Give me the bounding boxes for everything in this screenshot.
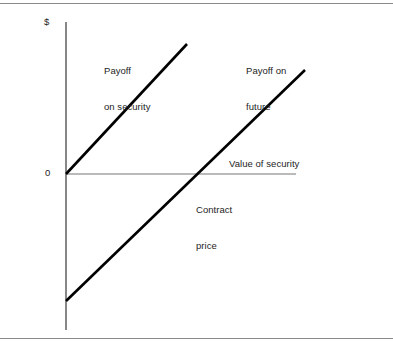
payoff-on-future-annotation-line2: future [246,101,286,113]
contract-price-annotation: Contract price [196,180,232,276]
contract-price-annotation-line2: price [196,240,232,252]
payoff-on-security-annotation-line2: on security [104,101,151,113]
payoff-on-future-annotation: Payoff on future [246,41,286,137]
contract-price-annotation-line1: Contract [196,204,232,216]
y-axis-label: $ [44,16,49,28]
x-axis-label: Value of security [229,158,299,170]
y-axis-zero-label: 0 [45,167,50,179]
payoff-on-future-annotation-line1: Payoff on [246,65,286,77]
payoff-chart-plot [0,0,393,351]
payoff-on-security-annotation-line1: Payoff [104,65,151,77]
figure-canvas: $ 0 Payoff on security Payoff on future … [0,0,393,351]
payoff-on-security-annotation: Payoff on security [104,41,151,137]
